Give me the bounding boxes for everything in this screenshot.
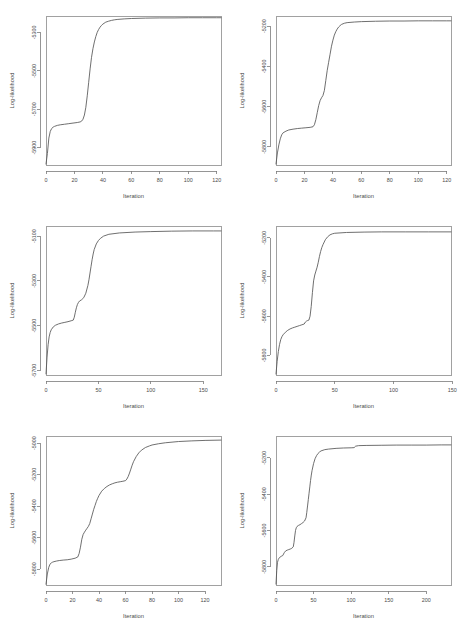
x-tick-label: 100	[347, 597, 356, 603]
x-axis-label: Iteration	[123, 193, 144, 199]
figure-grid: -5300-5500-5700-5900020406080100120Itera…	[0, 0, 460, 631]
y-tick-label: -5400	[261, 270, 267, 284]
plot-middle-right: -5200-5400-5600-5800050100150IterationLo…	[230, 210, 460, 420]
x-axis-label: Iteration	[353, 193, 374, 199]
y-axis-label: Log-likelihood	[239, 283, 245, 319]
plot-box	[276, 436, 451, 585]
x-axis-label: Iteration	[123, 613, 144, 619]
y-tick-label: -5600	[261, 309, 267, 323]
x-tick-label: 80	[387, 177, 393, 183]
x-tick-label: 60	[123, 597, 129, 603]
x-axis-label: Iteration	[353, 403, 374, 409]
y-tick-label: -5200	[261, 19, 267, 33]
plot-top-right: -5200-5400-5600-5800020406080100120Itera…	[230, 0, 460, 210]
y-tick-label: -5500	[31, 64, 37, 78]
plot-box	[46, 16, 221, 165]
x-tick-label: 40	[96, 597, 102, 603]
x-tick-label: 0	[45, 597, 48, 603]
y-axis-label: Log-likelihood	[9, 283, 15, 319]
log-likelihood-curve	[276, 445, 451, 584]
x-tick-label: 120	[201, 597, 210, 603]
y-tick-label: -5800	[31, 562, 37, 576]
x-tick-label: 80	[149, 597, 155, 603]
y-tick-label: -5200	[261, 451, 267, 465]
y-tick-label: -5600	[261, 524, 267, 538]
y-axis-label: Log-likelihood	[9, 493, 15, 529]
y-tick-label: -5600	[31, 531, 37, 545]
x-tick-label: 100	[174, 597, 183, 603]
plot-top-left: -5300-5500-5700-5900020406080100120Itera…	[0, 0, 230, 210]
x-tick-label: 150	[384, 597, 393, 603]
log-likelihood-curve	[46, 440, 221, 584]
plot-bottom-right: -5200-5400-5600-5800050100150200Iteratio…	[230, 420, 460, 630]
plot-box	[46, 226, 221, 375]
x-tick-label: 20	[71, 177, 77, 183]
x-tick-label: 40	[330, 177, 336, 183]
y-tick-label: -5200	[261, 231, 267, 245]
x-tick-label: 60	[128, 177, 134, 183]
y-axis-label: Log-likelihood	[239, 73, 245, 109]
x-tick-label: 0	[275, 387, 278, 393]
y-tick-label: -5700	[31, 364, 37, 378]
y-tick-label: -5900	[31, 141, 37, 155]
y-tick-label: -5300	[31, 25, 37, 39]
x-axis-label: Iteration	[353, 613, 374, 619]
x-tick-label: 40	[100, 177, 106, 183]
x-tick-label: 50	[311, 597, 317, 603]
log-likelihood-curve	[276, 21, 451, 164]
y-tick-label: -5400	[31, 499, 37, 513]
y-tick-label: -5600	[261, 100, 267, 114]
x-tick-label: 0	[275, 177, 278, 183]
plot-box	[46, 436, 221, 585]
y-tick-label: -5400	[261, 59, 267, 73]
y-tick-label: -5000	[31, 436, 37, 450]
x-axis-label: Iteration	[123, 403, 144, 409]
y-tick-label: -5800	[261, 140, 267, 154]
y-tick-label: -5200	[31, 468, 37, 482]
x-tick-label: 0	[45, 387, 48, 393]
x-tick-label: 60	[358, 177, 364, 183]
x-tick-label: 50	[95, 387, 101, 393]
y-tick-label: -5100	[31, 229, 37, 243]
x-tick-label: 150	[448, 387, 457, 393]
x-tick-label: 80	[157, 177, 163, 183]
x-tick-label: 0	[45, 177, 48, 183]
x-tick-label: 150	[199, 387, 208, 393]
x-tick-label: 50	[332, 387, 338, 393]
log-likelihood-curve	[276, 232, 451, 374]
y-axis-label: Log-likelihood	[9, 73, 15, 109]
x-tick-label: 120	[212, 177, 221, 183]
y-tick-label: -5300	[31, 274, 37, 288]
y-axis-label: Log-likelihood	[239, 493, 245, 529]
y-tick-label: -5800	[261, 560, 267, 574]
y-tick-label: -5800	[261, 348, 267, 362]
x-tick-label: 100	[184, 177, 193, 183]
y-tick-label: -5400	[261, 487, 267, 501]
x-tick-label: 0	[275, 597, 278, 603]
log-likelihood-curve	[46, 231, 221, 374]
x-tick-label: 20	[70, 597, 76, 603]
x-tick-label: 20	[301, 177, 307, 183]
plot-bottom-left: -5000-5200-5400-5600-5800020406080100120…	[0, 420, 230, 630]
x-tick-label: 120	[442, 177, 451, 183]
plot-box	[276, 16, 451, 165]
plot-box	[276, 226, 451, 375]
x-tick-label: 100	[414, 177, 423, 183]
log-likelihood-curve	[46, 18, 221, 164]
y-tick-label: -5500	[31, 319, 37, 333]
x-tick-label: 100	[146, 387, 155, 393]
y-tick-label: -5700	[31, 102, 37, 116]
x-tick-label: 100	[389, 387, 398, 393]
plot-middle-left: -5100-5300-5500-5700050100150IterationLo…	[0, 210, 230, 420]
x-tick-label: 200	[422, 597, 431, 603]
